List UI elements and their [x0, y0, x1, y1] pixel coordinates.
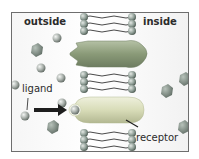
receptor-protein	[69, 97, 144, 123]
bound-ligand	[71, 106, 80, 115]
ligand-pointer-line	[27, 98, 28, 110]
label-inside: inside	[143, 17, 177, 27]
channel-protein	[70, 41, 147, 68]
lipid-bilayer	[80, 13, 136, 151]
label-receptor: receptor	[136, 133, 178, 143]
label-outside: outside	[24, 17, 66, 27]
membrane-diagram	[12, 13, 188, 151]
diagram-frame	[11, 12, 189, 152]
label-ligand: ligand	[22, 84, 53, 94]
